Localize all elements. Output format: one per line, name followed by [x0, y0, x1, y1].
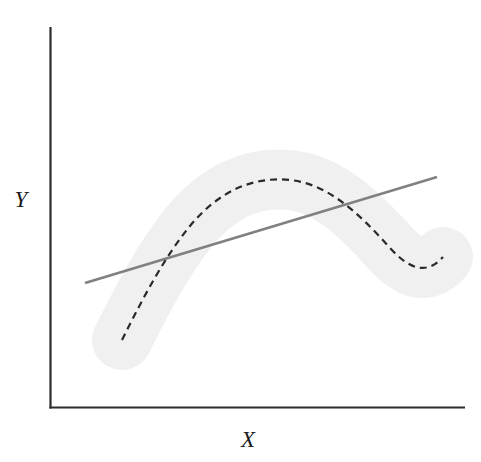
uncertainty-band-group — [122, 179, 443, 340]
uncertainty-band — [122, 179, 443, 340]
x-axis-label: X — [240, 427, 256, 452]
figure-canvas: Y X — [0, 0, 481, 462]
y-axis-label: Y — [15, 187, 30, 212]
plot-svg: Y X — [0, 0, 481, 462]
